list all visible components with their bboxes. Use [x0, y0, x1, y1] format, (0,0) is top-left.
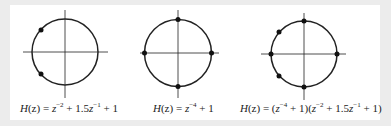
- zero-marker: [277, 30, 282, 35]
- plot-2: [140, 10, 219, 98]
- equation-2: H(z) = z−4 + 1: [153, 101, 214, 115]
- zero-marker: [142, 51, 147, 56]
- zero-marker: [302, 85, 307, 90]
- equation-1: H(z) = z−2 + 1.5z−1 + 1: [20, 101, 118, 115]
- plot-3: [261, 13, 346, 100]
- plot-1: [23, 10, 108, 98]
- equation-3: H(z) = (z−4 + 1)(z−2 + 1.5z−1 + 1): [240, 101, 382, 115]
- zero-marker: [269, 52, 274, 57]
- zero-marker: [39, 28, 44, 33]
- zero-marker: [335, 52, 340, 57]
- zero-marker: [277, 74, 282, 79]
- zero-marker: [176, 17, 181, 22]
- zero-marker: [302, 19, 307, 24]
- zero-marker: [176, 84, 181, 89]
- zero-marker: [39, 72, 44, 77]
- zero-marker: [209, 51, 214, 56]
